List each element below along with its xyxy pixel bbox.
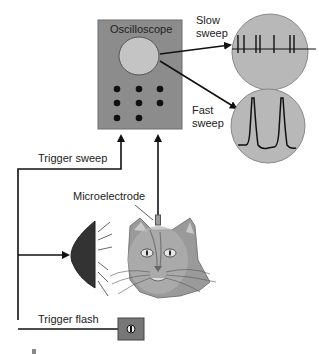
microelectrode: [156, 215, 161, 225]
oscilloscope-screen: [119, 37, 159, 75]
fast-sweep-display: [231, 89, 305, 163]
flash-trigger-box: [118, 318, 144, 340]
microelectrode-label: Microelectrode: [73, 190, 145, 203]
oscilloscope-label: Oscilloscope: [110, 23, 172, 36]
diagram-graphics: [0, 0, 319, 354]
experiment-diagram: Oscilloscope Slow sweep Fast sweep Trigg…: [0, 0, 319, 354]
oscilloscope: [98, 20, 182, 129]
fast-sweep-label: Fast sweep: [192, 104, 224, 130]
trigger-sweep-label: Trigger sweep: [38, 152, 107, 165]
figure-marker: [32, 349, 36, 354]
light-source: [71, 221, 112, 296]
slow-sweep-label: Slow sweep: [196, 14, 228, 40]
trigger-flash-label: Trigger flash: [38, 313, 99, 326]
cat-head: [110, 218, 216, 298]
slow-sweep-display: [232, 14, 316, 90]
